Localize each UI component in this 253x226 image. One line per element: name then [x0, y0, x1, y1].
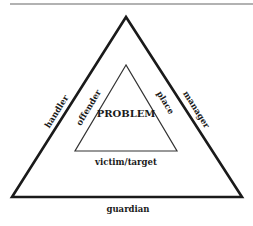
outer-triangle [12, 17, 242, 197]
problem-triangle-diagram: PROBLEM offender place victim/target han… [0, 0, 253, 226]
inner-right-label-place: place [155, 89, 177, 116]
inner-bottom-label-victim-target: victim/target [94, 157, 157, 167]
center-label-problem: PROBLEM [97, 108, 156, 119]
outer-bottom-label-guardian: guardian [107, 204, 150, 214]
